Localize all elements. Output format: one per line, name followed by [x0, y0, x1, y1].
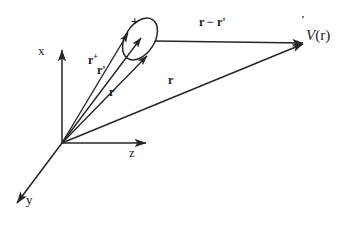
vector-label-r-main: r [168, 74, 173, 86]
axis-label-x: x [38, 44, 45, 57]
charge-plus-sign: + [131, 14, 138, 27]
vector-label-r-prime-mark: ' [102, 63, 105, 77]
vector-r-minus-r-prime [155, 41, 303, 43]
axis-label-z: z [129, 146, 135, 159]
vector-diagram-svg [0, 0, 345, 226]
axis-y [17, 143, 62, 203]
vector-label-separation-base: r − r [199, 15, 222, 29]
axis-label-y: y [26, 193, 33, 206]
field-point-symbol: V [306, 27, 315, 43]
vector-label-r-minus-r-prime: r − r' [199, 16, 226, 28]
vector-r-plus [62, 33, 128, 143]
vector-r-main [62, 44, 303, 143]
vector-label-r-prime: r' [97, 64, 106, 76]
vector-label-r-inner: r [109, 86, 114, 98]
vector-label-r-plus-superscript: + [93, 52, 98, 61]
figure-canvas: x z y + r+ r' r r r − r' V(r) [0, 0, 345, 226]
field-point-argument: (r) [315, 27, 330, 43]
vector-label-separation-prime: ' [222, 15, 225, 29]
field-point-label: V(r) [306, 28, 330, 43]
stray-dot [302, 16, 304, 18]
